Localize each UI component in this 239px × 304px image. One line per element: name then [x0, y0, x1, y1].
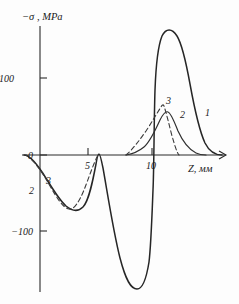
curve-label-3-left: 3	[45, 175, 51, 186]
y-tick-label-0: 0	[28, 150, 33, 161]
figure-container: −σ , MPa Z, мм 100 0 −100 5 10 1 2 3 2 3	[0, 0, 239, 304]
stress-distribution-chart: −σ , MPa Z, мм 100 0 −100 5 10 1 2 3 2 3	[0, 0, 239, 304]
x-axis-label: Z, мм	[188, 163, 213, 174]
curve-label-3-right: 3	[165, 95, 171, 106]
curve-label-2-left: 2	[29, 185, 34, 196]
y-tick-label-minus-100: −100	[11, 226, 33, 237]
y-tick-label-100: 100	[0, 73, 14, 84]
curve-label-1: 1	[205, 107, 210, 118]
x-tick-label-5: 5	[85, 160, 90, 171]
curve-2-path	[126, 112, 206, 155]
curve-3-peak-path	[126, 105, 179, 155]
y-axis-label: −σ , MPa	[22, 11, 63, 22]
curve-1-path	[24, 30, 222, 289]
x-tick-label-10: 10	[146, 160, 156, 171]
curve-label-2-right: 2	[180, 109, 185, 120]
